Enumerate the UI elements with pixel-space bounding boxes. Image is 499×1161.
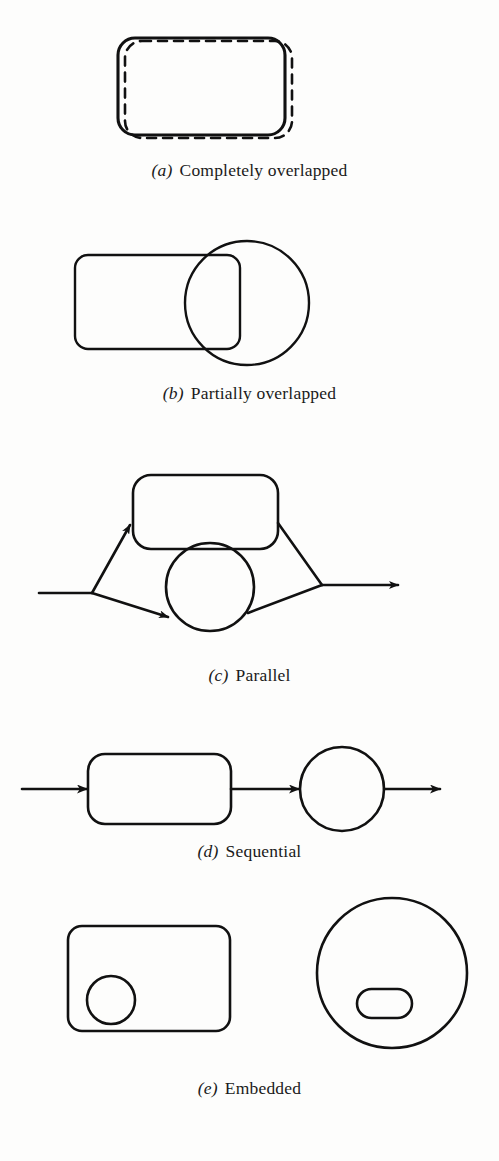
panel-d: (d)Sequential (0, 735, 499, 840)
caption-a-label: Completely overlapped (180, 160, 348, 180)
caption-c-label: Parallel (235, 665, 290, 685)
caption-d-label: Sequential (226, 841, 302, 861)
parallel-circle (166, 543, 254, 631)
solid-rounded-rectangle (118, 38, 285, 135)
caption-b-label: Partially overlapped (191, 383, 336, 403)
caption-d-index: (d) (198, 841, 219, 861)
panel-e-artwork (0, 888, 499, 1078)
panel-a: (a)Completely overlapped (0, 0, 499, 155)
figure-sheet: (a)Completely overlapped (b)Partially ov… (0, 0, 499, 1161)
parallel-merge-from-rectangle (278, 523, 322, 585)
parallel-rounded-rectangle (133, 475, 278, 549)
sequential-circle (300, 747, 384, 831)
caption-c: (c)Parallel (0, 665, 499, 687)
parallel-branch-to-rectangle (92, 525, 130, 593)
overlap-circle (185, 241, 309, 365)
panel-b: (b)Partially overlapped (0, 225, 499, 380)
parallel-diagram (0, 455, 499, 655)
panel-c-artwork (0, 455, 499, 655)
caption-a-index: (a) (152, 160, 173, 180)
sequential-rounded-rectangle (88, 754, 231, 824)
overlap-rounded-rectangle (75, 255, 240, 349)
panel-c: (c)Parallel (0, 455, 499, 655)
caption-d: (d)Sequential (0, 841, 499, 863)
parallel-merge-from-circle (248, 585, 322, 613)
caption-c-index: (c) (208, 665, 228, 685)
caption-b: (b)Partially overlapped (0, 383, 499, 405)
embedded-inner-pill (357, 989, 412, 1018)
completely-overlapped-diagram (0, 0, 499, 155)
caption-b-index: (b) (163, 383, 184, 403)
embedded-inner-circle (87, 976, 135, 1024)
embedded-outer-circle (317, 898, 467, 1048)
embedded-diagram (0, 888, 499, 1078)
caption-e-index: (e) (198, 1078, 218, 1098)
panel-d-artwork (0, 735, 499, 840)
parallel-branch-to-circle (92, 593, 168, 617)
panel-b-artwork (0, 225, 499, 380)
sequential-diagram (0, 735, 499, 840)
dashed-rounded-rectangle (125, 41, 292, 138)
panel-a-artwork (0, 0, 499, 155)
caption-a: (a)Completely overlapped (0, 160, 499, 182)
panel-e: (e)Embedded (0, 888, 499, 1078)
partially-overlapped-diagram (0, 225, 499, 380)
caption-e: (e)Embedded (0, 1078, 499, 1100)
caption-e-label: Embedded (225, 1078, 301, 1098)
